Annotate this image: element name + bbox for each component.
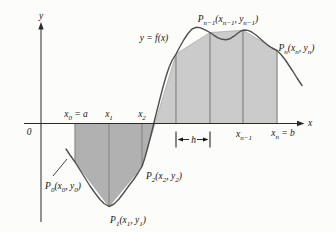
trapezoid-3-above <box>155 54 176 124</box>
label-pn: Pn(xn, yn) <box>279 43 315 53</box>
curve-label: y = f(x) <box>140 33 169 43</box>
trapezoid-4 <box>176 33 210 124</box>
y-axis-label: y <box>39 11 43 21</box>
x-axis-label: x <box>308 118 312 128</box>
h-marker-left-arrowhead <box>178 138 184 142</box>
label-p0: P0(x0, y0) <box>45 181 81 191</box>
trapezoid-1 <box>75 124 109 207</box>
y-axis-arrowhead <box>38 22 43 30</box>
tick-label-x0: x0 = a <box>64 109 88 119</box>
h-marker-right-arrowhead <box>203 138 209 142</box>
trapezoid-6 <box>243 30 277 123</box>
label-p1: P1(x1, y1) <box>110 215 146 225</box>
tick-label-xn: xn = b <box>271 128 295 138</box>
h-label: h <box>191 135 196 145</box>
trapezoid-rule-figure: yx0y = f(x)P0(x0, y0)P1(x1, y1)P2(x2, y2… <box>0 0 336 232</box>
label-pn-1: Pn−1(xn−1, yn−1) <box>198 14 259 24</box>
tick-label-xn-1: xn−1 <box>236 129 252 139</box>
trapezoid-2 <box>109 124 142 207</box>
label-p2: P2(x2, y2) <box>146 171 182 181</box>
origin-label: 0 <box>27 127 32 137</box>
trapezoid-5 <box>210 30 243 123</box>
x-axis-arrowhead <box>297 121 305 126</box>
tick-label-x1: x1 <box>105 109 113 119</box>
tick-label-x2: x2 <box>138 109 146 119</box>
p0-leader-line <box>53 159 67 176</box>
